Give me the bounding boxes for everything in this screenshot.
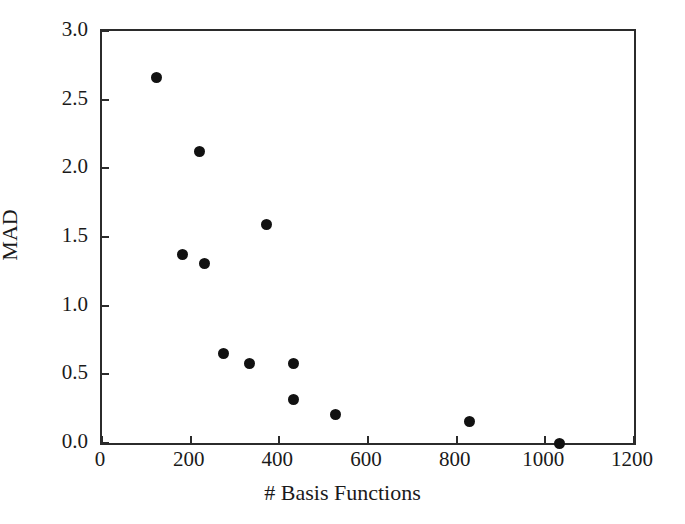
y-axis-tick (100, 99, 109, 101)
x-axis-tick (544, 436, 546, 445)
data-point-marker (330, 409, 341, 420)
x-axis-tick (456, 436, 458, 445)
scatter-chart-figure: MAD # Basis Functions 020040060080010001… (0, 0, 685, 524)
y-axis-tick-label: 1.5 (62, 225, 88, 246)
y-axis-tick-label: 0.0 (62, 431, 88, 452)
y-axis-tick (100, 236, 109, 238)
y-axis-tick (100, 442, 109, 444)
y-axis-tick (100, 167, 109, 169)
y-axis-tick-label: 3.0 (62, 19, 88, 40)
y-axis-tick-label: 1.0 (62, 293, 88, 314)
y-axis-tick (100, 30, 109, 32)
data-point-marker (199, 258, 210, 269)
x-axis-tick (633, 436, 635, 445)
x-axis-title: # Basis Functions (0, 482, 685, 504)
data-point-marker (244, 358, 255, 369)
x-axis-tick-label: 600 (350, 449, 382, 470)
x-axis-tick (367, 436, 369, 445)
x-axis-tick (278, 436, 280, 445)
x-axis-tick-label: 1200 (611, 449, 653, 470)
data-point-marker (177, 249, 188, 260)
x-axis-tick-label: 200 (173, 449, 205, 470)
x-axis-tick-label: 0 (95, 449, 106, 470)
plot-area (100, 29, 636, 445)
data-point-marker (288, 358, 299, 369)
y-axis-tick-label: 0.5 (62, 362, 88, 383)
data-point-marker (151, 72, 162, 83)
y-axis-tick-label: 2.5 (62, 87, 88, 108)
y-axis-title: MAD (0, 209, 21, 260)
data-point-marker (464, 416, 475, 427)
x-axis-tick-label: 1000 (522, 449, 564, 470)
y-axis-tick-label: 2.0 (62, 156, 88, 177)
data-point-marker (218, 348, 229, 359)
data-point-marker (194, 146, 205, 157)
x-axis-tick-label: 800 (439, 449, 471, 470)
data-point-marker (261, 219, 272, 230)
y-axis-tick (100, 305, 109, 307)
data-point-marker (288, 394, 299, 405)
x-axis-tick (190, 436, 192, 445)
y-axis-tick (100, 373, 109, 375)
x-axis-tick-label: 400 (262, 449, 294, 470)
